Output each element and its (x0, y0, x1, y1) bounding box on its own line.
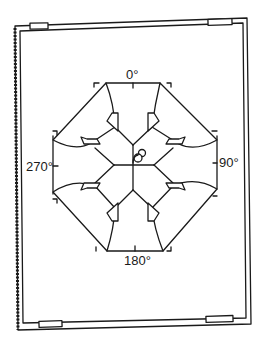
fan-top-left (53, 83, 115, 147)
clip-bottom-right (206, 316, 233, 323)
clip-top-right (208, 19, 232, 26)
label-270-deg: 270° (26, 159, 53, 174)
label-0-deg: 0° (126, 67, 138, 82)
label-90-deg: 90° (219, 155, 239, 170)
fan-bottom-left (53, 183, 115, 251)
clip-bottom-left (39, 321, 62, 328)
notch-tl-a (94, 83, 99, 87)
clip-top-left (30, 23, 48, 29)
label-180-deg: 180° (124, 253, 151, 268)
notch-tr-a (167, 83, 171, 87)
fan-bottom-right (152, 182, 217, 251)
diagram-canvas: 0° 90° 180° 270° (0, 0, 265, 342)
rosette-figure (53, 83, 217, 251)
board-spine (15, 28, 18, 330)
notch-br-b (167, 247, 171, 251)
notch-tl-b (53, 131, 57, 135)
notch-bl-a (53, 199, 57, 203)
spokes (95, 127, 173, 208)
